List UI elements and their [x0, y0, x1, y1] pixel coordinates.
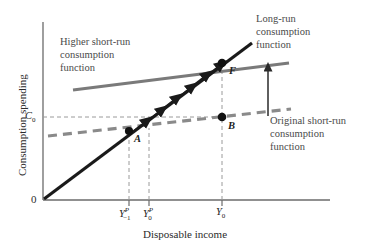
y-axis-title: Consumption spending [16, 74, 29, 176]
x-tick-yp0-sub: 0 [148, 214, 152, 222]
point-label-A: A [134, 133, 141, 145]
annotation-long-run: Long-run consumption function [256, 13, 310, 51]
consumption-function-diagram: Consumption spending Disposable income 0… [0, 0, 367, 252]
point-marker-A [125, 127, 133, 135]
point-label-B: B [228, 120, 235, 132]
annotation-original-short-run: Original short-run consumption function [270, 115, 346, 153]
y-tick-c0-sub: 0 [32, 116, 36, 124]
x-tick-label-y0: Y0 [216, 206, 225, 220]
x-tick-yp-1-sup: P [125, 206, 129, 214]
point-marker-F [218, 59, 227, 68]
x-tick-y0-sub: 0 [222, 212, 226, 220]
x-tick-label-yp-1: YP−1 [119, 206, 131, 222]
y-tick-c0-base: C [25, 110, 32, 121]
x-tick-yp-1-sub: −1 [123, 214, 130, 222]
annotation-higher-short-run: Higher short-run consumption function [60, 36, 130, 74]
x-tick-label-yp0: YP0 [143, 206, 152, 222]
origin-label: 0 [31, 193, 37, 206]
point-label-F: F [229, 65, 236, 77]
point-marker-B [218, 113, 227, 122]
x-tick-yp0-sup: P [149, 206, 153, 214]
x-axis-title: Disposable income [143, 228, 227, 241]
y-tick-label-c0: C0 [25, 110, 36, 124]
original-short-run-line [48, 109, 291, 136]
